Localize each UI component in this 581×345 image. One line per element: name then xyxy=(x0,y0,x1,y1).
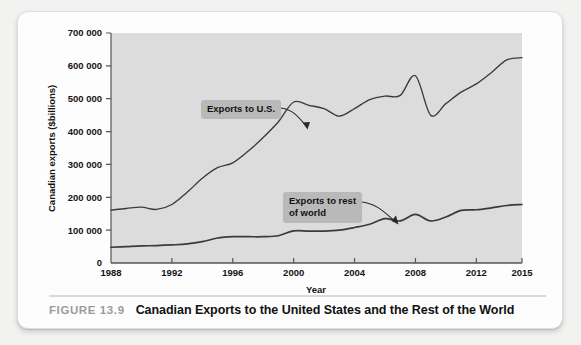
y-tick-label: 700 000 xyxy=(68,27,102,38)
y-axis: 0100 000200 000300 000400 000500 000600 … xyxy=(68,27,111,268)
annotation-row-line2: of world xyxy=(289,207,326,218)
caption-content: FIGURE 13.9 Canadian Exports to the Unit… xyxy=(49,303,514,317)
x-tick-label: 2015 xyxy=(511,267,533,278)
x-axis-title: Year xyxy=(306,284,326,295)
page-background: 0100 000200 000300 000400 000500 000600 … xyxy=(0,0,581,345)
figure-number: FIGURE 13.9 xyxy=(49,304,125,316)
x-tick-label: 1988 xyxy=(100,267,121,278)
annotation-exports-to-rest-of-world: Exports to restof world xyxy=(283,192,362,223)
figure-caption: FIGURE 13.9 Canadian Exports to the Unit… xyxy=(18,295,563,328)
y-tick-label: 100 000 xyxy=(68,225,102,236)
y-axis-title: Canadian exports ($billions) xyxy=(46,85,57,212)
exports-line-chart: 0100 000200 000300 000400 000500 000600 … xyxy=(18,12,563,297)
annotation-exports-to-us: Exports to U.S. xyxy=(201,100,281,119)
y-tick-label: 200 000 xyxy=(68,192,102,203)
y-tick-label: 600 000 xyxy=(68,60,102,71)
figure-card: 0100 000200 000300 000400 000500 000600 … xyxy=(17,11,563,329)
annotation-row-line1: Exports to rest xyxy=(289,195,356,206)
y-tick-label: 400 000 xyxy=(68,126,102,137)
x-tick-label: 2000 xyxy=(283,267,304,278)
caption-divider xyxy=(49,295,546,297)
x-tick-label: 2004 xyxy=(344,267,366,278)
y-tick-label: 500 000 xyxy=(68,93,102,104)
x-tick-label: 2008 xyxy=(405,267,426,278)
chart-region: 0100 000200 000300 000400 000500 000600 … xyxy=(18,12,563,297)
x-tick-label: 1992 xyxy=(161,267,182,278)
y-tick-label: 300 000 xyxy=(68,159,102,170)
figure-title: Canadian Exports to the United States an… xyxy=(136,303,515,317)
plot-background xyxy=(111,33,522,263)
x-tick-label: 2012 xyxy=(466,267,487,278)
x-tick-label: 1996 xyxy=(222,267,243,278)
